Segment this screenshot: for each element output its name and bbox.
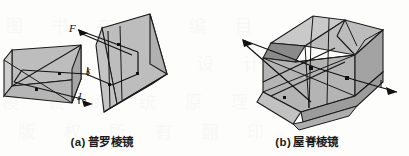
node-marker [108,83,111,86]
caption-text: 普罗棱镜 [88,136,134,148]
ray-label-incoming-porro: F [69,23,76,34]
caption-index: (b) [275,136,291,148]
caption-porro-prism: (a)普罗棱镜 [0,133,204,149]
arrowhead-incoming [78,29,88,36]
node-marker [117,43,120,46]
caption-roof-prism: (b)屋脊棱镜 [205,133,409,149]
node-marker [283,96,286,99]
node-marker [309,66,313,70]
node-marker [345,76,349,80]
panel-roof-prism: F J (b)屋脊棱镜 [205,0,409,156]
caption-text: 屋脊棱镜 [293,136,339,148]
ray-label-outgoing-porro: J [77,92,81,102]
roof-prism-drawing [205,0,409,132]
prism2-face-right [150,14,167,74]
caption-index: (a) [71,136,86,148]
optics-figure: 图 书 在 版 编 目 光 学 仪 器 设 计 棱 镜 系 统 原 理 版 权 … [0,0,409,156]
porro-prism-body-1 [4,45,81,103]
node-marker [58,72,61,75]
ray-label-mid-porro: k [86,66,90,76]
panel-porro-prism: F k J (a)普罗棱镜 [0,0,204,156]
node-marker [136,72,139,75]
arrowhead-outgoing [82,100,93,107]
node-marker [35,88,38,91]
porro-prism-body-2 [96,14,167,112]
porro-prism-drawing [0,0,204,132]
